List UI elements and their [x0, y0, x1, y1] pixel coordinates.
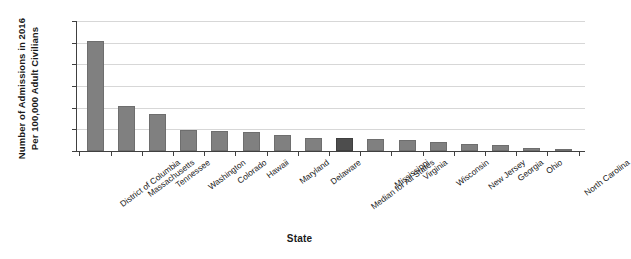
- x-tick-mark: [79, 152, 80, 156]
- y-tick-mark: [72, 21, 76, 22]
- x-category-label: Hawaii: [265, 158, 290, 180]
- bar: [87, 41, 104, 151]
- y-tick-mark: [72, 64, 76, 65]
- bar: [430, 142, 447, 151]
- x-tick-mark: [204, 152, 205, 156]
- gridline: [76, 64, 585, 65]
- x-axis-line: [76, 151, 585, 152]
- x-tick-mark: [298, 152, 299, 156]
- y-axis-title-line-1: Number of Admissions in 2016: [16, 9, 29, 169]
- bar: [274, 135, 291, 151]
- x-category-label: North Carolina: [583, 158, 631, 198]
- y-tick-mark: [72, 129, 76, 130]
- x-tick-mark: [547, 152, 548, 156]
- x-tick-mark: [391, 152, 392, 156]
- x-tick-mark: [329, 152, 330, 156]
- x-tick-mark: [267, 152, 268, 156]
- y-tick-mark: [72, 43, 76, 44]
- y-tick-mark: [72, 86, 76, 87]
- bar: [243, 132, 260, 151]
- gridline: [76, 108, 585, 109]
- bar: [180, 130, 197, 151]
- bar: [211, 131, 228, 151]
- x-tick-mark: [454, 152, 455, 156]
- x-tick-mark: [423, 152, 424, 156]
- x-axis-title: State: [0, 233, 599, 244]
- x-tick-mark: [235, 152, 236, 156]
- y-tick-mark: [72, 151, 76, 152]
- bar: [118, 106, 135, 152]
- x-category-label: District of Columbia: [119, 158, 182, 209]
- x-tick-mark: [516, 152, 517, 156]
- y-axis-title-line-2: Per 100,000 Adult Civilians: [28, 9, 41, 169]
- x-tick-mark: [360, 152, 361, 156]
- plot-area: [76, 21, 585, 151]
- y-axis-title: Number of Admissions in 2016 Per 100,000…: [16, 9, 41, 169]
- gridline: [76, 21, 585, 22]
- gridline: [76, 43, 585, 44]
- x-tick-mark: [485, 152, 486, 156]
- bar: [336, 138, 353, 151]
- x-category-label: Maryland: [298, 158, 331, 186]
- x-tick-mark: [111, 152, 112, 156]
- x-tick-mark: [142, 152, 143, 156]
- gridline: [76, 86, 585, 87]
- bar: [367, 139, 384, 151]
- bar: [399, 140, 416, 151]
- y-tick-mark: [72, 108, 76, 109]
- x-category-label: Ohio: [544, 158, 564, 176]
- x-tick-mark: [173, 152, 174, 156]
- bar: [149, 114, 166, 151]
- y-axis-line: [76, 21, 77, 151]
- bar: [461, 144, 478, 151]
- bar: [305, 138, 322, 151]
- x-category-label: Delaware: [330, 158, 364, 186]
- x-tick-mark: [579, 152, 580, 156]
